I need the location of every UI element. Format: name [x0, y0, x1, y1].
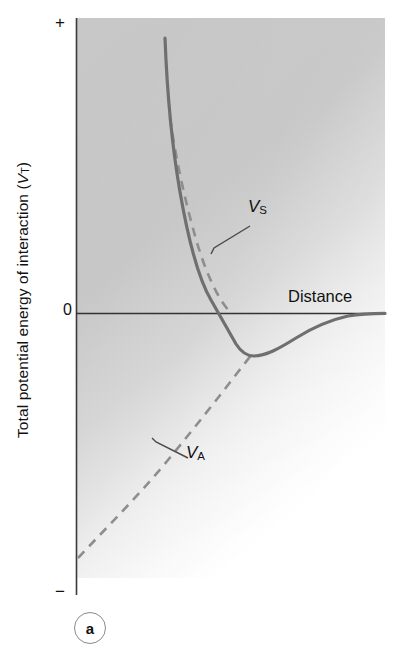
curve-label-va: VA: [186, 444, 205, 462]
y-axis-label-suffix: ): [14, 162, 31, 167]
curve-label-va-symbol: V: [186, 443, 197, 462]
curve-label-vs: VS: [248, 198, 267, 216]
y-axis-minus-sign: −: [50, 583, 70, 600]
figure-panel: Total potential energy of interaction (V…: [0, 0, 401, 655]
potential-energy-plot: [0, 0, 401, 655]
y-axis-label-symbol: V: [14, 174, 31, 184]
curve-label-vs-subscript: S: [259, 204, 267, 216]
y-axis-label-subscript: T: [19, 167, 31, 174]
panel-letter-badge: a: [74, 612, 106, 644]
y-axis-label-prefix: Total potential energy of interaction (: [14, 184, 31, 438]
curve-label-vs-symbol: V: [248, 197, 259, 216]
curve-label-va-subscript: A: [197, 450, 205, 462]
y-axis-label: Total potential energy of interaction (V…: [14, 162, 32, 438]
y-axis-zero-tick-label: 0: [50, 302, 72, 318]
y-axis-label-container: Total potential energy of interaction (V…: [0, 0, 46, 600]
x-axis-label: Distance: [288, 288, 352, 305]
y-axis-plus-sign: +: [50, 14, 70, 31]
